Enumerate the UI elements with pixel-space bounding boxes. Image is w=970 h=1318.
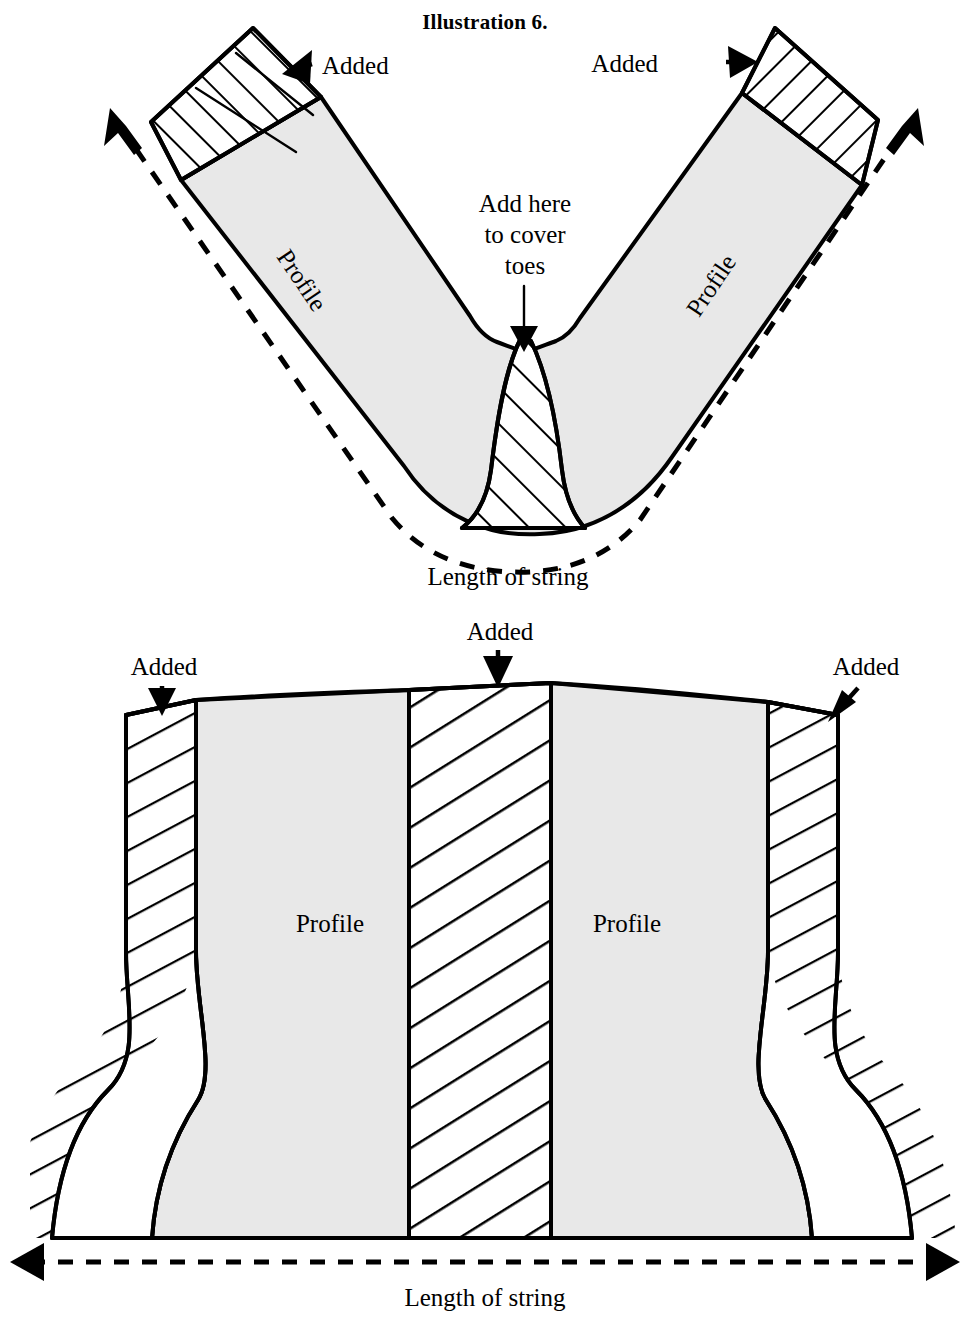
bottom-added-left-label: Added xyxy=(131,653,198,680)
bottom-added-center-band xyxy=(400,670,570,1250)
top-guide-arrowhead-right xyxy=(886,108,924,155)
bottom-caption: Length of string xyxy=(404,1284,566,1311)
top-toe-label-line2: to cover xyxy=(484,221,566,248)
bottom-measure-arrowhead-right xyxy=(926,1243,960,1281)
bottom-added-right-label-group: Added xyxy=(828,653,900,722)
top-added-left-label-group: Added xyxy=(282,50,389,84)
top-guide-arrowhead-left xyxy=(104,108,142,155)
top-caption: Length of string xyxy=(427,563,589,590)
top-added-left-label: Added xyxy=(322,52,389,79)
bottom-string-measure xyxy=(10,1243,960,1281)
bottom-added-right-label: Added xyxy=(833,653,900,680)
bottom-added-center-label: Added xyxy=(467,618,534,645)
top-toe-label-line1: Add here xyxy=(479,190,571,217)
bottom-measure-arrowhead-left xyxy=(10,1243,44,1281)
top-toe-label-group: Add here to cover toes xyxy=(479,190,571,352)
illustration-figure: Added Added Add here to cover toes Profi… xyxy=(0,0,970,1318)
top-added-right-label: Added xyxy=(591,50,658,77)
bottom-profile-left-label: Profile xyxy=(296,910,364,937)
bottom-diagram: Added Added Added Profile Profile Length… xyxy=(10,618,960,1311)
top-added-right-label-group: Added xyxy=(591,46,758,78)
bottom-added-center-label-group: Added xyxy=(467,618,534,688)
top-diagram: Added Added Add here to cover toes Profi… xyxy=(104,10,924,590)
top-toe-label-line3: toes xyxy=(505,252,545,279)
top-caption-group: Length of string Length of string xyxy=(427,563,589,590)
bottom-profile-right-label: Profile xyxy=(593,910,661,937)
